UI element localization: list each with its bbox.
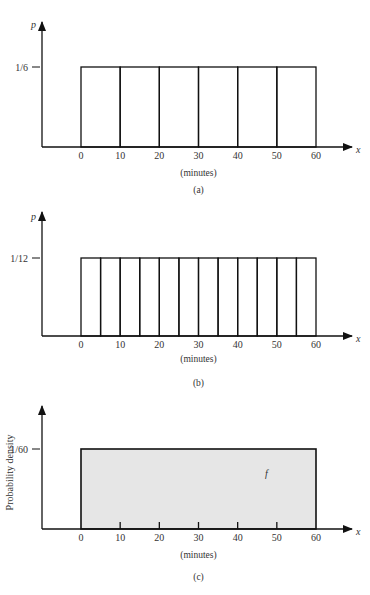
x-tick-label: 50 [272,339,282,350]
x-axis-label: x [355,144,361,155]
y-axis-title: Probability density [4,435,15,511]
panel-label: (a) [193,185,204,196]
x-tick-label: 40 [233,339,243,350]
bars-group [81,67,316,147]
bar [257,258,277,336]
x-tick-label: 50 [272,150,282,161]
x-tick-label: 0 [79,532,84,543]
bar [199,67,238,147]
bar [159,67,198,147]
bar [218,258,238,336]
panel-b: 1/12 p x 0102030405060 (minutes) (b) [10,211,361,389]
x-tick-label: 10 [115,339,125,350]
panel-c: 1/60 Probability density x 0102030405060… [4,406,361,583]
x-tick-label: 50 [272,532,282,543]
x-axis-label: x [355,526,361,537]
x-tick-label: 30 [194,150,204,161]
panel-a: 1/6 p x 0102030405060 (minutes) (a) [15,19,361,196]
panel-label: (b) [193,378,204,389]
bar [238,67,277,147]
x-tick-label: 0 [79,150,84,161]
x-tick-label: 0 [79,339,84,350]
y-level-label: 1/6 [15,62,28,73]
bar [277,258,297,336]
bar [81,449,316,529]
panel-label: (c) [193,572,204,583]
x-tick-label: 30 [194,339,204,350]
bar [120,258,140,336]
x-tick-labels: 0102030405060 [79,532,322,543]
x-tick-label: 40 [233,150,243,161]
bar [120,67,159,147]
y-axis-label: p [30,211,36,222]
x-tick-label: 10 [115,150,125,161]
bar [238,258,258,336]
bar [140,258,160,336]
x-tick-label: 10 [115,532,125,543]
x-unit-label: (minutes) [180,168,216,179]
x-tick-label: 20 [154,532,164,543]
x-tick-label: 60 [311,150,321,161]
x-tick-labels: 0102030405060 [79,339,322,350]
bar [179,258,199,336]
bars-group [81,258,316,336]
x-unit-label: (minutes) [180,354,216,365]
y-level-label: 1/12 [10,253,28,264]
x-tick-label: 60 [311,339,321,350]
x-tick-label: 20 [154,150,164,161]
bar [101,258,121,336]
x-tick-label: 40 [233,532,243,543]
x-tick-label: 20 [154,339,164,350]
x-tick-labels: 0102030405060 [79,150,322,161]
figure: 1/6 p x 0102030405060 (minutes) (a) 1/12… [0,0,370,595]
x-tick-label: 60 [311,532,321,543]
bar [81,67,120,147]
x-tick-label: 30 [194,532,204,543]
y-axis-label: p [30,19,36,30]
bar [277,67,316,147]
x-unit-label: (minutes) [180,550,216,561]
x-axis-label: x [355,333,361,344]
bar [159,258,179,336]
bar [199,258,219,336]
bars-group [81,449,316,529]
bar [296,258,316,336]
bar [81,258,101,336]
